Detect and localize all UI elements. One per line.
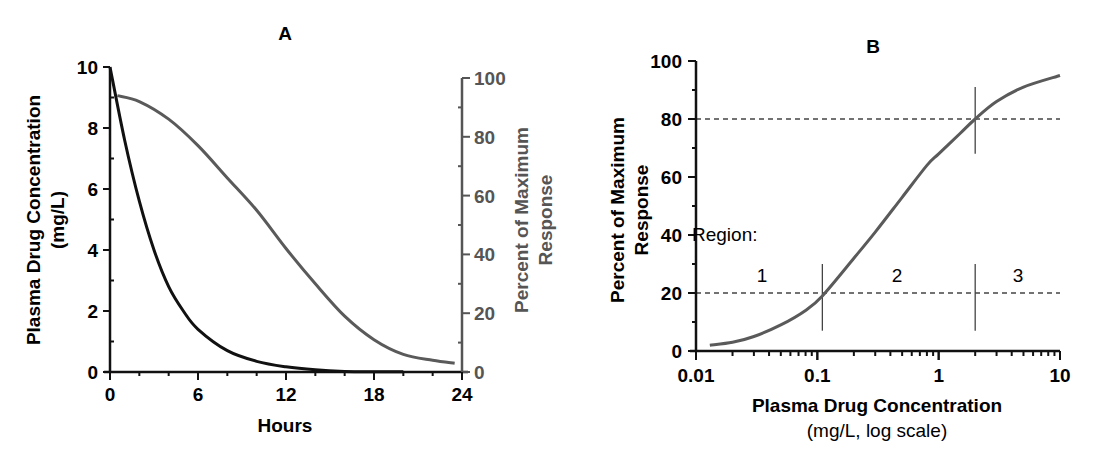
y-tick-label: 20 [661, 283, 682, 304]
y-tick-label: 40 [661, 225, 682, 246]
y-tick-label: 100 [650, 51, 682, 72]
y2-tick-label: 80 [474, 127, 495, 148]
panel-a-y2label-line1: Percent of Maximum [511, 127, 532, 313]
x-tick-label: 0.01 [678, 365, 715, 386]
x-tick-label: 0 [105, 384, 116, 405]
region-1-label: 1 [757, 265, 768, 286]
panel-b: B 0204060801000.010.1110 Region: 1 2 3 P… [607, 36, 1071, 441]
region-label: Region: [692, 224, 758, 245]
panel-b-xlabel: Plasma Drug Concentration [752, 395, 1002, 416]
y2-tick-label: 40 [474, 244, 495, 265]
x-tick-label: 24 [451, 384, 473, 405]
y2-tick-label: 60 [474, 186, 495, 207]
panel-a-title: A [278, 23, 292, 44]
x-tick-label: 6 [193, 384, 204, 405]
x-tick-label: 1 [933, 365, 944, 386]
y2-tick-label: 20 [474, 303, 495, 324]
figure: A 024681002040608010006121824 Hours Plas… [0, 0, 1094, 463]
sigmoid-curve [710, 76, 1060, 346]
y2-tick-label: 0 [474, 362, 485, 383]
panel-b-ylabel-line1: Percent of Maximum [607, 117, 628, 303]
panel-b-ylabel-line2: Response [631, 165, 652, 256]
x-tick-label: 18 [363, 384, 384, 405]
panel-a-xlabel: Hours [258, 415, 313, 436]
reference-lines [696, 87, 1060, 331]
y-tick-label: 80 [661, 109, 682, 130]
panel-b-xlabel-sub: (mg/L, log scale) [807, 420, 947, 441]
panel-a-axes: 024681002040608010006121824 [77, 57, 506, 405]
panel-a-y2label-line2: Response [535, 175, 556, 266]
panel-a-ylabel-line1: Plasma Drug Concentration [23, 95, 44, 345]
x-tick-label: 12 [275, 384, 296, 405]
response-curve [117, 96, 454, 364]
panel-b-axes: 0204060801000.010.1110 [650, 51, 1070, 386]
y-tick-label: 2 [87, 301, 98, 322]
y2-tick-label: 100 [474, 68, 506, 89]
y-tick-label: 4 [87, 240, 98, 261]
panel-a-ylabel-line2: (mg/L) [47, 191, 68, 249]
y-tick-label: 0 [671, 341, 682, 362]
x-tick-label: 0.1 [804, 365, 831, 386]
panel-b-title: B [866, 36, 880, 57]
y-tick-label: 10 [77, 57, 98, 78]
region-2-label: 2 [892, 265, 903, 286]
y-tick-label: 8 [87, 118, 98, 139]
region-3-label: 3 [1013, 265, 1024, 286]
panel-a: A 024681002040608010006121824 Hours Plas… [23, 23, 556, 436]
x-tick-label: 10 [1049, 365, 1070, 386]
y-tick-label: 60 [661, 167, 682, 188]
concentration-curve [110, 67, 403, 372]
y-tick-label: 6 [87, 179, 98, 200]
y-tick-label: 0 [87, 362, 98, 383]
